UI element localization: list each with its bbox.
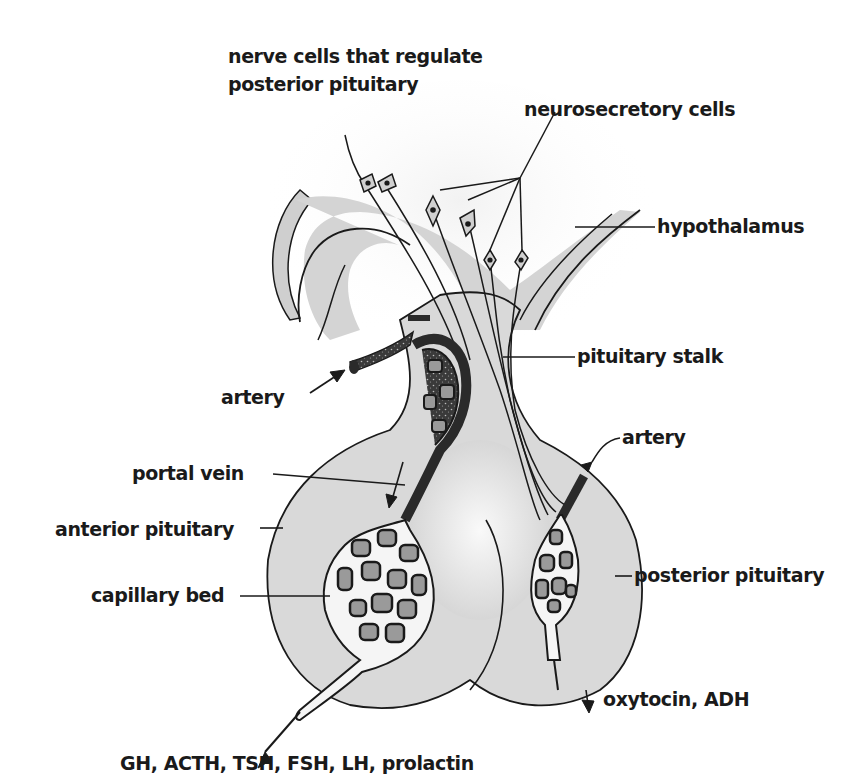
anterior-outflow [265, 712, 300, 752]
nerve-cells-label-line2: posterior pituitary [228, 72, 418, 96]
neurosecretory-cells-label: neurosecretory cells [524, 97, 735, 121]
pituitary-diagram: nerve cells that regulate posterior pitu… [0, 0, 865, 784]
posterior-output-label: oxytocin, ADH [603, 687, 749, 711]
artery-right-leader [592, 438, 620, 462]
capillary-bed-label: capillary bed [91, 583, 224, 607]
arrow-head-icon [582, 700, 594, 713]
nerve-cells-label-line1: nerve cells that regulate [228, 44, 483, 68]
pituitary-stalk-label: pituitary stalk [577, 344, 723, 368]
artery-left-label: artery [221, 385, 285, 409]
portal-vein-label: portal vein [132, 461, 244, 485]
anterior-pituitary-label: anterior pituitary [55, 517, 234, 541]
artery-right-label: artery [622, 425, 686, 449]
posterior-pituitary-label: posterior pituitary [634, 563, 824, 587]
arrow-head-icon [330, 370, 345, 382]
pituitary-illustration [0, 0, 865, 784]
hypothalamus-label: hypothalamus [657, 214, 804, 238]
anterior-output-label: GH, ACTH, TSH, FSH, LH, prolactin [120, 751, 474, 775]
